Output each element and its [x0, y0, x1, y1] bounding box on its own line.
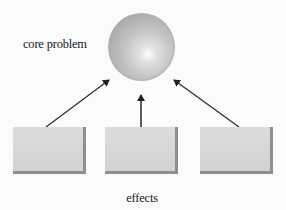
effect-box-2 — [105, 127, 178, 174]
arrow-left — [46, 80, 109, 127]
effect-box-1 — [13, 127, 86, 174]
effects-label: effects — [0, 191, 284, 205]
core-problem-sphere — [108, 13, 175, 81]
diagram-canvas: core problem effects — [0, 0, 286, 210]
arrow-right — [174, 80, 239, 127]
core-problem-label: core problem — [23, 37, 87, 51]
effect-box-3 — [200, 127, 273, 174]
